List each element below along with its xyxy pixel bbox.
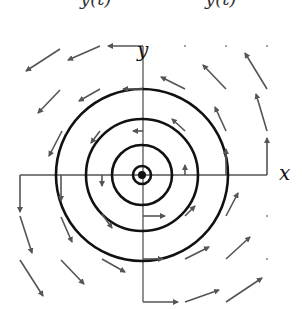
y-axis-label: y [137,38,148,62]
zero-vector-dot [184,45,186,47]
field-arrow [68,46,100,60]
field-arrow [203,65,226,89]
field-arrow [79,89,100,101]
vector-field-diagram: y(t) y(t) y x [0,0,302,309]
title-fragment-left: y(t) [80,0,111,9]
zero-vector-dot [266,45,268,47]
title-fragment-right: y(t) [205,0,236,9]
field-arrow [185,290,219,302]
field-arrow [26,49,60,71]
zero-vector-dot [266,258,268,260]
zero-vector-dot [266,215,268,217]
field-arrow [38,90,60,113]
x-axis-label: x [279,161,290,185]
field-arrow [256,94,267,131]
field-arrow [161,77,185,89]
vector-field-plot [0,0,302,309]
field-arrow [20,216,32,253]
zero-vector-dot [225,45,227,47]
field-arrow [20,260,43,296]
origin-dot [138,171,146,179]
field-arrow [245,53,267,89]
field-arrow [61,260,84,284]
field-arrow [215,107,226,131]
field-arrow [102,259,125,272]
field-arrow [226,237,250,259]
field-arrow [226,278,262,302]
field-arrow [226,193,238,216]
